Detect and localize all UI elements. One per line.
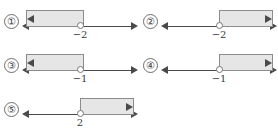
region-arrow-icon-4 [265,59,272,67]
option-marker-5: ⑤ [4,102,19,117]
option-marker-4: ④ [143,58,158,73]
open-endpoint-3 [77,66,84,73]
shaded-region-4 [219,54,273,71]
answer-option-2[interactable]: ② −2 [139,2,278,48]
open-endpoint-4 [216,66,223,73]
open-endpoint-2 [216,22,223,29]
shaded-region-1 [26,10,84,27]
number-line-4: −1 [161,46,277,92]
answer-option-1[interactable]: ① −2 [0,2,139,48]
axis-left-arrow-icon-5 [22,110,29,118]
axis-right-arrow-icon-3 [131,66,138,74]
number-line-3: −1 [22,46,138,92]
shaded-region-2 [219,10,273,27]
open-endpoint-5 [77,110,84,117]
boundary-label-1: −2 [73,29,88,40]
answer-option-4[interactable]: ④ −1 [139,46,278,92]
boundary-label-5: 2 [77,117,83,128]
option-marker-2: ② [143,14,158,29]
boundary-label-4: −1 [212,73,227,84]
axis-left-arrow-icon-4 [161,66,168,74]
region-arrow-icon-2 [265,15,272,23]
answer-option-5[interactable]: ⑤ 2 [0,90,139,136]
answer-choice-figure: ① −2 ② −2 ③ [0,0,278,138]
shaded-region-3 [26,54,84,71]
number-line-5: 2 [22,90,138,136]
option-marker-1: ① [4,14,19,29]
region-arrow-icon-3 [27,59,34,67]
region-arrow-icon-1 [27,15,34,23]
number-line-2: −2 [161,2,277,48]
axis-left-arrow-icon-2 [161,22,168,30]
boundary-label-2: −2 [212,29,227,40]
region-arrow-icon-5 [126,103,133,111]
boundary-label-3: −1 [73,73,88,84]
option-marker-3: ③ [4,58,19,73]
number-line-1: −2 [22,2,138,48]
shaded-region-5 [80,98,134,115]
axis-right-arrow-icon-1 [131,22,138,30]
answer-option-3[interactable]: ③ −1 [0,46,139,92]
open-endpoint-1 [77,22,84,29]
